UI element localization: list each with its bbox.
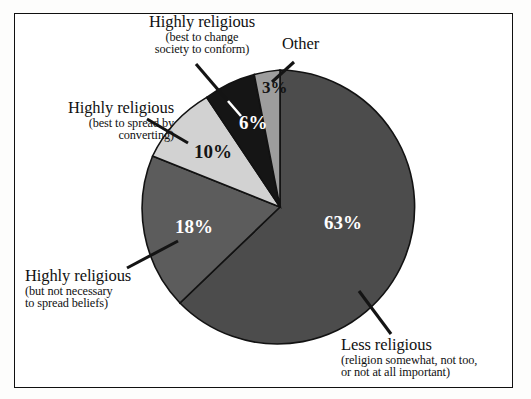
callout-less-religious-sub: (religion somewhat, not too, or not at a… [341, 354, 519, 379]
slice-value-label-converting: 10% [194, 141, 232, 163]
callout-conform-lead: Highly religious [122, 14, 282, 31]
slice-value-label-less-religious: 63% [324, 212, 362, 234]
callout-conform-sub: (best to change society to conform) [122, 31, 282, 56]
slice-value-label-other: 3% [262, 78, 288, 98]
callout-label-not-necessary: Highly religious (but not necessary to s… [25, 268, 195, 310]
callout-not-necessary-lead: Highly religious [25, 268, 195, 285]
callout-converting-sub-line-2: converting) [22, 129, 174, 142]
callout-not-necessary-sub-line-2: to spread beliefs) [25, 297, 195, 310]
slice-value-label-not-necessary: 18% [175, 216, 213, 238]
callout-less-religious-lead: Less religious [341, 337, 519, 354]
slice-value-label-conform: 6% [239, 112, 268, 134]
callout-label-less-religious: Less religious (religion somewhat, not t… [341, 337, 519, 379]
callout-converting-lead: Highly religious [22, 100, 174, 117]
callout-other-lead: Other [282, 36, 362, 53]
callout-label-converting: Highly religious (best to spread by conv… [22, 100, 174, 142]
callout-less-religious-sub-line-2: or not at all important) [341, 366, 519, 379]
callout-converting-sub: (best to spread by converting) [22, 117, 174, 142]
callout-label-conform: Highly religious (best to change society… [122, 14, 282, 56]
callout-label-other: Other [282, 36, 362, 53]
pie-chart-figure: 63% 18% 10% 6% 3% Highly religious (best… [0, 0, 531, 399]
callout-not-necessary-sub: (but not necessary to spread beliefs) [25, 285, 195, 310]
callout-conform-sub-line-2: society to conform) [122, 43, 282, 56]
